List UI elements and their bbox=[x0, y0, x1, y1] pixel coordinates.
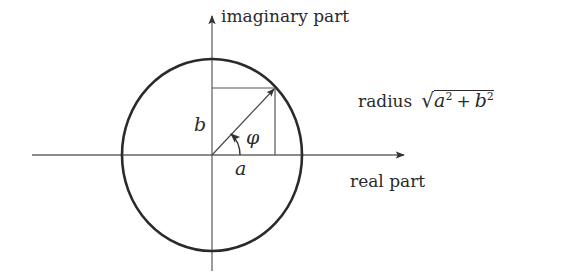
a-label: a bbox=[235, 157, 246, 179]
b-label: b bbox=[194, 113, 206, 135]
diagram-graphics bbox=[0, 0, 565, 277]
imaginary-axis-label: imaginary part bbox=[221, 6, 349, 26]
phi-label: φ bbox=[246, 126, 259, 148]
radius-vector bbox=[212, 89, 274, 155]
radius-expression: a2+b2 bbox=[434, 90, 494, 111]
angle-arc bbox=[231, 134, 240, 155]
radius-label: radius √a2+b2 bbox=[358, 88, 494, 112]
real-axis-label: real part bbox=[350, 171, 425, 191]
complex-plane-diagram: imaginary part real part radius √a2+b2 b… bbox=[0, 0, 565, 277]
radius-text: radius bbox=[358, 91, 412, 111]
sqrt-symbol: √ bbox=[421, 88, 434, 112]
